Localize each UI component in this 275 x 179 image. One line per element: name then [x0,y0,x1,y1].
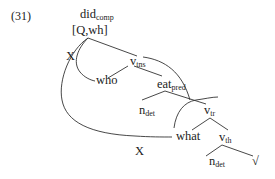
edge-vtr-vth [210,118,228,130]
edge-eat-vtr [165,91,206,104]
node-eat-pred-sub: pred [172,83,186,92]
node-what: what [176,130,200,143]
node-eat-pred: eatpred [157,78,186,92]
node-n-det-1-sub: det [145,109,155,118]
node-who: who [96,74,118,87]
node-root-sub: comp [96,13,114,22]
node-eat-pred-base: eat [157,77,172,91]
node-v-tns: vtns [130,55,146,69]
node-v-th-sub: th [225,136,231,145]
arc-label-x-lower: X [135,145,144,158]
node-root-symbol: √ [252,155,259,168]
node-n-det-2-sub: det [215,160,225,169]
example-number: (31) [11,10,31,22]
node-root-base: did [80,7,96,21]
node-n-det-1: ndet [139,104,155,118]
node-v-tr-sub: tr [210,109,215,118]
edge-vth-root [222,145,253,156]
edge-root-who [76,38,95,81]
node-root-features: [Q,wh] [72,24,108,37]
arc-label-x-upper: X [66,50,75,63]
node-root: didcomp [80,8,114,22]
node-v-tr: vtr [204,104,215,118]
node-v-tns-sub: tns [136,60,145,69]
node-n-det-2: ndet [209,155,225,169]
node-v-th: vth [219,131,231,145]
edge-eat-ndet [142,91,165,100]
